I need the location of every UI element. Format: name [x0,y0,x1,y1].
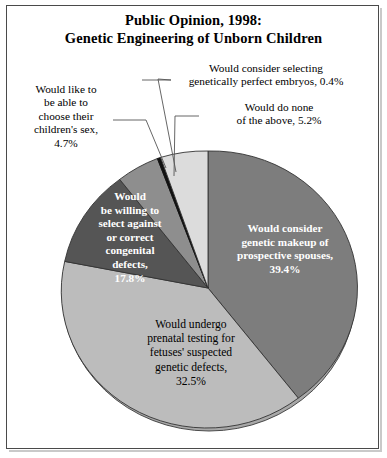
chart-page: Public Opinion, 1998: Genetic Engineerin… [0,0,387,458]
slice-label-prenatal: Would undergo prenatal testing for fetus… [110,318,272,389]
slice-label-spouses: Would consider genetic makeup of prospec… [215,222,355,276]
callout-label-none: Would do none of the above, 5.2% [199,101,359,128]
callout-label-childrens-sex: Would like to be able to choose their ch… [4,83,128,150]
slice-label-congenital: Would be willing to select against or co… [73,190,187,285]
callout-label-embryos: Would consider selecting genetically per… [171,62,361,89]
